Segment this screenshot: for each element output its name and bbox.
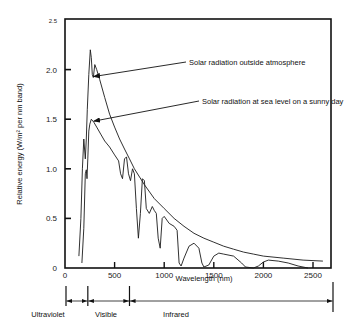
annotation-label: Solar radiation at sea level on a sunny … — [202, 97, 344, 106]
y-axis-title: Relative energy (W/m² per nm band) — [15, 83, 24, 205]
annotation-arrow — [94, 101, 199, 121]
spectrum-bands: UltravioletVisibleInfrared — [31, 282, 333, 319]
band-label-infrared: Infrared — [163, 310, 189, 319]
annotation-label: Solar radiation outside atmosphere — [189, 58, 305, 67]
x-tick-label: 500 — [108, 271, 122, 280]
x-tick-label: 2500 — [304, 271, 322, 280]
annotation-arrow — [94, 62, 186, 77]
y-tick-label: 0.5 — [46, 214, 58, 223]
x-tick-label: 1000 — [155, 271, 173, 280]
band-label-ultraviolet: Ultraviolet — [31, 310, 65, 319]
solar-spectrum-chart: 00.51.01.52.02.505001000150020002500 Sol… — [0, 0, 352, 329]
y-tick-label: 2.5 — [49, 18, 58, 24]
y-tick-label: 1.5 — [46, 115, 58, 124]
y-tick-label: 2.0 — [46, 66, 58, 75]
sea-level-curve — [82, 119, 308, 268]
band-label-visible: Visible — [95, 310, 117, 319]
x-tick-label: 2000 — [255, 271, 273, 280]
y-tick-label: 0 — [53, 264, 58, 273]
plot-series — [79, 50, 323, 268]
y-tick-label: 1.0 — [46, 165, 58, 174]
x-axis-title: Wavelength (nm) — [176, 274, 233, 283]
plot-frame — [65, 19, 331, 268]
x-tick-label: 0 — [63, 271, 68, 280]
plot-annotations: Solar radiation outside atmosphereSolar … — [94, 58, 344, 121]
